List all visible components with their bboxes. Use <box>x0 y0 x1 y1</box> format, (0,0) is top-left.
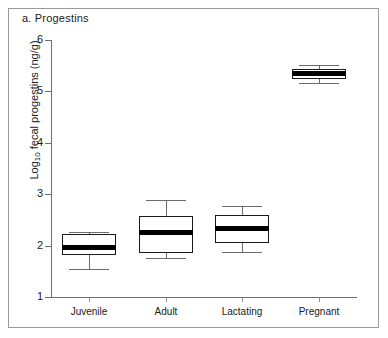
figure-canvas: a. Progestins Log10 fecal progestins (ng… <box>0 0 388 338</box>
x-tick-label-adult: Adult <box>155 306 178 317</box>
y-tick-label-4: 4 <box>7 136 43 148</box>
y-tick-label-5: 5 <box>7 84 43 96</box>
y-tick-5 <box>45 91 51 92</box>
median-line-adult <box>139 230 193 235</box>
y-tick-label-3: 3 <box>7 187 43 199</box>
x-tick-lactating <box>242 297 243 302</box>
whisker-lower-lactating <box>242 243 243 252</box>
whisker-upper-lactating <box>242 206 243 215</box>
whisker-cap-upper-lactating <box>222 206 262 207</box>
x-tick-label-lactating: Lactating <box>222 306 263 317</box>
y-tick-4 <box>45 143 51 144</box>
whisker-cap-upper-adult <box>146 200 186 201</box>
whisker-cap-upper-pregnant <box>299 65 339 66</box>
median-line-lactating <box>215 226 269 231</box>
y-axis-line <box>51 40 52 298</box>
whisker-lower-juvenile <box>89 255 90 269</box>
whisker-cap-lower-lactating <box>222 252 262 253</box>
y-axis-title-subscript: 10 <box>33 152 42 161</box>
whisker-cap-lower-adult <box>146 258 186 259</box>
y-axis-title-log: Log <box>28 161 40 179</box>
x-tick-juvenile <box>89 297 90 302</box>
y-tick-6 <box>45 40 51 41</box>
y-tick-label-6: 6 <box>7 33 43 45</box>
whisker-cap-lower-pregnant <box>299 83 339 84</box>
y-tick-label-2: 2 <box>7 239 43 251</box>
y-tick-1 <box>45 297 51 298</box>
median-line-pregnant <box>292 71 346 76</box>
y-tick-3 <box>45 194 51 195</box>
whisker-cap-lower-juvenile <box>69 269 109 270</box>
x-axis-line <box>51 297 357 298</box>
x-tick-adult <box>166 297 167 302</box>
figure-border <box>8 8 379 328</box>
y-tick-2 <box>45 246 51 247</box>
y-tick-label-1: 1 <box>7 290 43 302</box>
x-tick-label-pregnant: Pregnant <box>299 306 340 317</box>
whisker-upper-adult <box>166 200 167 216</box>
x-tick-label-juvenile: Juvenile <box>71 306 108 317</box>
median-line-juvenile <box>62 245 116 250</box>
x-tick-pregnant <box>319 297 320 302</box>
